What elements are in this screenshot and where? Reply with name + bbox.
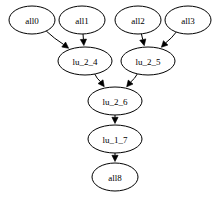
graph-node-all3[interactable]: all3 bbox=[165, 6, 211, 34]
edge-all3-to-lu_2_5 bbox=[161, 32, 176, 47]
graph-node-lu_2_4[interactable]: lu_2_4 bbox=[58, 47, 112, 75]
dag-diagram: all0all1all2all3lu_2_4lu_2_5lu_2_6lu_1_7… bbox=[0, 0, 221, 198]
graph-node-lu_2_5[interactable]: lu_2_5 bbox=[121, 47, 175, 75]
node-label: lu_2_5 bbox=[135, 57, 161, 67]
edge-lu_2_6-to-lu_1_7 bbox=[112, 115, 118, 124]
arrowhead-icon bbox=[112, 117, 118, 123]
edge-all2-to-lu_2_5 bbox=[140, 34, 146, 46]
arrowhead-icon bbox=[140, 39, 146, 46]
node-label: all8 bbox=[108, 173, 122, 183]
node-label: lu_1_7 bbox=[102, 135, 128, 145]
node-label: lu_2_6 bbox=[102, 97, 128, 107]
graph-node-all1[interactable]: all1 bbox=[59, 6, 105, 34]
edge-lu_2_4-to-lu_2_6 bbox=[95, 74, 104, 87]
graph-canvas: all0all1all2all3lu_2_4lu_2_5lu_2_6lu_1_7… bbox=[0, 0, 221, 198]
edge-line bbox=[46, 31, 63, 45]
edge-line bbox=[131, 74, 138, 82]
edge-all1-to-lu_2_4 bbox=[80, 34, 86, 46]
node-label: all1 bbox=[75, 16, 89, 26]
edge-line bbox=[141, 34, 142, 40]
edge-lu_2_5-to-lu_2_6 bbox=[127, 74, 138, 87]
arrowhead-icon bbox=[80, 39, 86, 45]
node-label: all2 bbox=[131, 16, 145, 26]
node-label: all0 bbox=[25, 16, 39, 26]
graph-node-lu_1_7[interactable]: lu_1_7 bbox=[88, 125, 142, 153]
edge-line bbox=[95, 74, 101, 82]
edge-all0-to-lu_2_4 bbox=[46, 31, 68, 48]
edge-lu_1_7-to-all8 bbox=[112, 153, 118, 162]
graph-node-all8[interactable]: all8 bbox=[92, 163, 138, 191]
edge-line bbox=[166, 32, 177, 43]
node-label: lu_2_4 bbox=[72, 57, 98, 67]
node-label: all3 bbox=[181, 16, 195, 26]
graph-node-lu_2_6[interactable]: lu_2_6 bbox=[88, 87, 142, 115]
graph-node-all2[interactable]: all2 bbox=[115, 6, 161, 34]
arrowhead-icon bbox=[62, 42, 69, 48]
arrowhead-icon bbox=[112, 155, 118, 161]
graph-node-all0[interactable]: all0 bbox=[9, 6, 55, 34]
node-layer: all0all1all2all3lu_2_4lu_2_5lu_2_6lu_1_7… bbox=[9, 6, 211, 191]
